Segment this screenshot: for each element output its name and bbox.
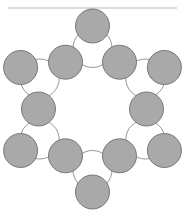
small-circle-junction-upper-left [49,45,83,79]
small-circle-top [76,9,110,43]
small-circle-junction-upper-right [103,45,137,79]
small-circle-left-lower [4,134,38,168]
small-circle-junction-right [130,92,164,126]
small-circle-right-lower [147,134,181,168]
small-circle-right-upper [147,51,181,85]
small-circle-left-upper [4,51,38,85]
small-circle-junction-lower-left [49,139,83,173]
small-circle-bottom [76,175,110,209]
circles-figure [0,0,185,217]
small-circle-junction-left [22,92,56,126]
figure-canvas [0,0,185,217]
small-circle-junction-lower-right [103,139,137,173]
